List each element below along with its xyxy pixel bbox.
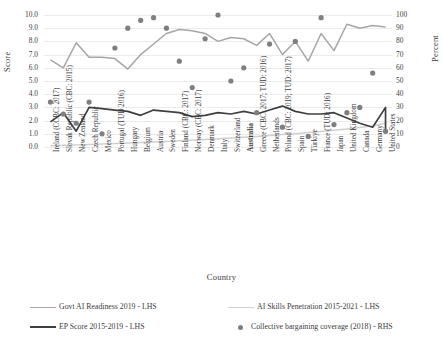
- x-category-label: Türkiye: [311, 129, 319, 152]
- scatter-point: [370, 70, 375, 75]
- x-category-label: United Kingdom: [350, 103, 358, 152]
- secondary-y-tick-label: 50: [396, 77, 422, 85]
- secondary-y-tick-label: 80: [396, 37, 422, 45]
- y-tick-label: 10.0: [12, 11, 38, 19]
- scatter-point: [138, 18, 143, 23]
- legend-line-marker: [30, 307, 56, 308]
- legend-item[interactable]: EP Score 2015-2019 - LHS: [30, 322, 144, 331]
- y-tick-label: 6.0: [12, 64, 38, 72]
- x-category-label: Spain: [298, 136, 306, 152]
- x-category-label: Austria: [157, 131, 165, 152]
- legend-line-marker: [30, 326, 56, 328]
- legend-label: Govt AI Readiness 2019 - LHS: [59, 302, 157, 311]
- y-tick-label: 0.0: [12, 143, 38, 151]
- x-category-label: Australia: [247, 123, 255, 152]
- chart-legend: Govt AI Readiness 2019 - LHSAI Skills Pe…: [0, 300, 443, 345]
- x-category-label: Netherlands: [273, 117, 281, 152]
- x-category-label: Italy: [221, 139, 229, 152]
- line-series: [50, 24, 385, 69]
- legend-line-marker: [228, 307, 254, 308]
- x-category-label: Germany: [376, 125, 384, 152]
- scatter-point: [344, 110, 349, 115]
- x-category-label: Denmark: [208, 125, 216, 152]
- x-category-label: United States: [389, 113, 397, 152]
- secondary-y-axis-title: Percent: [430, 35, 440, 62]
- x-category-label: Norway (CBC: 2017): [195, 90, 203, 152]
- scatter-point: [87, 100, 92, 105]
- scatter-point: [151, 15, 156, 20]
- scatter-point: [99, 131, 104, 136]
- x-category-label: Czech Republic: [92, 106, 100, 152]
- secondary-y-tick-label: 30: [396, 103, 422, 111]
- x-category-label: Portugal (TUD 2016): [118, 90, 126, 152]
- y-axis-title: Score: [2, 52, 12, 72]
- x-category-label: Belgium: [144, 127, 152, 152]
- x-category-label: Switzerland: [234, 118, 242, 152]
- y-tick-label: 8.0: [12, 37, 38, 45]
- y-tick-label: 5.0: [12, 77, 38, 85]
- scatter-point: [164, 26, 169, 31]
- scatter-point: [319, 15, 324, 20]
- legend-label: AI Skills Penetration 2015-2021 - LHS: [257, 302, 379, 311]
- secondary-y-tick-label: 10: [396, 130, 422, 138]
- y-tick-label: 7.0: [12, 51, 38, 59]
- y-tick-label: 3.0: [12, 103, 38, 111]
- scatter-point: [125, 26, 130, 31]
- y-tick-label: 2.0: [12, 117, 38, 125]
- scatter-point: [112, 45, 117, 50]
- legend-item[interactable]: Govt AI Readiness 2019 - LHS: [30, 302, 157, 311]
- chart-container: Score Percent Country 10.09.08.07.06.05.…: [0, 0, 443, 345]
- y-tick-label: 1.0: [12, 130, 38, 138]
- x-category-label: Poland (CBC: 2019; TUD: 2017): [285, 56, 293, 152]
- scatter-point: [293, 39, 298, 44]
- x-category-label: Greece (CBC: 2017; TUD: 2016): [260, 56, 268, 152]
- secondary-y-tick-label: 40: [396, 90, 422, 98]
- legend-item[interactable]: AI Skills Penetration 2015-2021 - LHS: [228, 302, 379, 311]
- y-tick-label: 9.0: [12, 24, 38, 32]
- legend-dot-marker: [238, 325, 243, 330]
- scatter-point: [228, 78, 233, 83]
- scatter-point: [254, 110, 259, 115]
- legend-label: Collective bargaining coverage (2018) - …: [251, 322, 393, 331]
- secondary-y-tick-label: 0: [396, 143, 422, 151]
- scatter-point: [331, 122, 336, 127]
- scatter-point: [267, 41, 272, 46]
- x-category-label: Mexico: [105, 130, 113, 152]
- x-category-label: Hungary: [131, 127, 139, 152]
- x-category-label: Sweden: [169, 129, 177, 152]
- x-category-label: New Zealand: [79, 113, 87, 152]
- y-tick-label: 4.0: [12, 90, 38, 98]
- x-axis-title: Country: [0, 272, 443, 282]
- secondary-y-tick-label: 70: [396, 51, 422, 59]
- x-category-label: Ireland (CCBC: 2017): [53, 88, 61, 152]
- x-category-label: France (TUD: 2016): [324, 93, 332, 152]
- x-category-label: Slovak Republic (CBC: 2015): [66, 65, 74, 152]
- x-category-label: Canada: [363, 130, 371, 152]
- secondary-y-tick-label: 20: [396, 117, 422, 125]
- legend-label: EP Score 2015-2019 - LHS: [59, 322, 144, 331]
- scatter-point: [215, 12, 220, 17]
- x-category-label: Finland (CBC: 2017): [182, 91, 190, 152]
- secondary-y-tick-label: 90: [396, 24, 422, 32]
- secondary-y-tick-label: 100: [396, 11, 422, 19]
- x-category-label: Japan: [337, 136, 345, 152]
- scatter-point: [203, 36, 208, 41]
- legend-item[interactable]: Collective bargaining coverage (2018) - …: [228, 322, 393, 331]
- scatter-point: [241, 65, 246, 70]
- scatter-point: [177, 59, 182, 64]
- secondary-y-tick-label: 60: [396, 64, 422, 72]
